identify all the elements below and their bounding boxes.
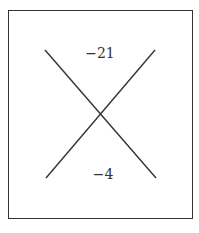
bottom-value-label: −4 — [93, 167, 114, 181]
top-value-label: −21 — [85, 46, 115, 60]
cross-lines — [0, 0, 199, 233]
